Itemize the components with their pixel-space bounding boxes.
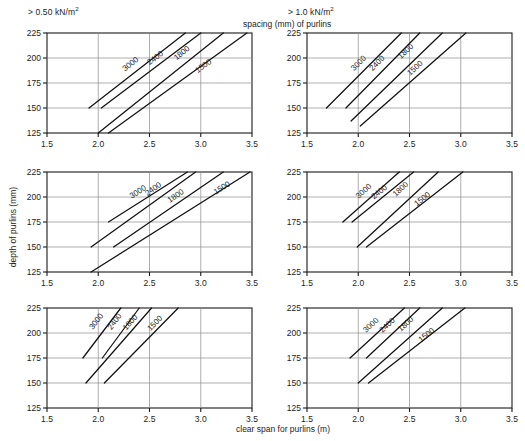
x-tick-label: 2.0 xyxy=(352,414,364,424)
y-tick-label: 175 xyxy=(287,78,301,88)
y-tick-label: 150 xyxy=(27,378,41,388)
load-condition-header-right: > 1.0 kN/m2 xyxy=(288,5,334,17)
x-tick-label: 3.5 xyxy=(246,139,258,149)
x-tick-label: 3.0 xyxy=(455,139,467,149)
x-tick-label: 2.5 xyxy=(144,414,156,424)
y-tick-label: 150 xyxy=(287,378,301,388)
y-tick-label: 225 xyxy=(287,28,301,38)
x-tick-label: 3.0 xyxy=(195,278,207,288)
y-tick-label: 175 xyxy=(287,217,301,227)
x-tick-label: 3.0 xyxy=(455,278,467,288)
y-tick-label: 225 xyxy=(27,28,41,38)
y-tick-label: 200 xyxy=(27,53,41,63)
x-tick-label: 3.0 xyxy=(455,414,467,424)
x-tick-label: 3.0 xyxy=(195,414,207,424)
x-tick-label: 1.5 xyxy=(41,139,53,149)
x-tick-label: 1.5 xyxy=(41,278,53,288)
x-tick-label: 2.0 xyxy=(92,139,104,149)
y-tick-label: 200 xyxy=(287,192,301,202)
y-tick-label: 175 xyxy=(27,78,41,88)
y-tick-label: 175 xyxy=(287,353,301,363)
load-condition-left-superscript: 2 xyxy=(75,5,79,12)
panel-mid-left: 30002400180015001251501752002251.52.02.5… xyxy=(15,164,270,296)
y-tick-label: 200 xyxy=(287,53,301,63)
x-tick-label: 2.0 xyxy=(352,139,364,149)
x-tick-label: 2.0 xyxy=(92,414,104,424)
x-tick-label: 2.0 xyxy=(92,278,104,288)
y-tick-label: 150 xyxy=(287,242,301,252)
y-tick-label: 125 xyxy=(27,267,41,277)
y-tick-label: 200 xyxy=(27,328,41,338)
y-tick-label: 200 xyxy=(27,192,41,202)
y-tick-label: 225 xyxy=(287,303,301,313)
x-tick-label: 3.5 xyxy=(246,414,258,424)
x-tick-label: 3.0 xyxy=(195,139,207,149)
load-condition-left-text: > 0.50 kN/m xyxy=(28,7,75,17)
y-tick-label: 125 xyxy=(27,403,41,413)
x-tick-label: 1.5 xyxy=(301,414,313,424)
y-tick-label: 175 xyxy=(27,217,41,227)
load-condition-right-text: > 1.0 kN/m xyxy=(288,7,330,17)
panel-bottom-left: 30002400180015001251501752002251.52.02.5… xyxy=(15,300,270,432)
panel-top-left: 30002400180015001251501752002251.52.02.5… xyxy=(15,25,270,157)
y-tick-label: 125 xyxy=(27,128,41,138)
y-tick-label: 125 xyxy=(287,128,301,138)
x-tick-label: 2.5 xyxy=(404,414,416,424)
x-tick-label: 1.5 xyxy=(301,278,313,288)
x-tick-label: 2.0 xyxy=(352,278,364,288)
y-tick-label: 125 xyxy=(287,267,301,277)
load-condition-header-left: > 0.50 kN/m2 xyxy=(28,5,79,17)
x-tick-label: 1.5 xyxy=(301,139,313,149)
y-tick-label: 225 xyxy=(27,167,41,177)
load-condition-right-superscript: 2 xyxy=(330,5,334,12)
purlin-design-chart: > 0.50 kN/m2 > 1.0 kN/m2 spacing (mm) of… xyxy=(0,0,525,441)
y-tick-label: 200 xyxy=(287,328,301,338)
x-tick-label: 3.5 xyxy=(246,278,258,288)
x-tick-label: 3.5 xyxy=(506,414,518,424)
x-tick-label: 3.5 xyxy=(506,278,518,288)
y-tick-label: 225 xyxy=(27,303,41,313)
y-tick-label: 175 xyxy=(27,353,41,363)
y-tick-label: 225 xyxy=(287,167,301,177)
x-tick-label: 3.5 xyxy=(506,139,518,149)
x-tick-label: 2.5 xyxy=(144,139,156,149)
panel-mid-right: 30002400180015001251501752002251.52.02.5… xyxy=(275,164,525,296)
y-tick-label: 150 xyxy=(27,242,41,252)
y-tick-label: 125 xyxy=(287,403,301,413)
y-tick-label: 150 xyxy=(287,103,301,113)
x-tick-label: 1.5 xyxy=(41,414,53,424)
x-tick-label: 2.5 xyxy=(144,278,156,288)
x-tick-label: 2.5 xyxy=(404,278,416,288)
x-tick-label: 2.5 xyxy=(404,139,416,149)
panel-bottom-right: 30002400180015001251501752002251.52.02.5… xyxy=(275,300,525,432)
y-tick-label: 150 xyxy=(27,103,41,113)
panel-top-right: 30002400180015001251501752002251.52.02.5… xyxy=(275,25,525,157)
